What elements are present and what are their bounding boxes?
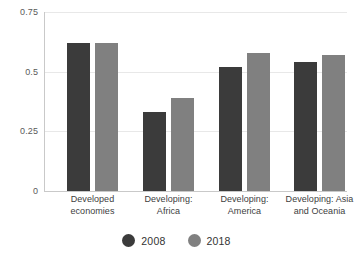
y-tick-label-050: 0.5 bbox=[2, 67, 38, 77]
legend-label-2018: 2018 bbox=[207, 235, 231, 247]
chart-legend: 2008 2018 bbox=[0, 234, 353, 247]
bar-group-developing-asia-oceania bbox=[285, 12, 354, 191]
gridline-000-baseline bbox=[44, 191, 347, 192]
y-tick-label-000: 0 bbox=[2, 186, 38, 196]
bar-developing-america-2008[interactable] bbox=[219, 67, 242, 191]
bar-developing-africa-2018[interactable] bbox=[171, 98, 194, 191]
x-axis-labels: Developed economies Developing: Africa D… bbox=[44, 194, 347, 230]
x-label-line-2: and Oceania bbox=[294, 206, 346, 216]
bar-developed-economies-2008[interactable] bbox=[67, 43, 90, 191]
legend-swatch-icon-2018 bbox=[188, 234, 201, 247]
x-label-line-2: America bbox=[228, 206, 261, 216]
bar-developing-africa-2008[interactable] bbox=[143, 112, 166, 191]
bar-group-developed-economies bbox=[58, 12, 127, 191]
legend-swatch-icon-2008 bbox=[122, 234, 135, 247]
x-label-developing-asia-oceania: Developing: Asia and Oceania bbox=[267, 194, 358, 217]
x-label-line-1: Developing: bbox=[220, 194, 268, 204]
bar-developing-america-2018[interactable] bbox=[247, 53, 270, 191]
bar-developing-asia-oceania-2008[interactable] bbox=[294, 62, 317, 191]
legend-item-2018[interactable]: 2018 bbox=[188, 234, 231, 247]
bar-groups bbox=[44, 12, 347, 191]
x-label-line-1: Developing: Asia bbox=[286, 194, 354, 204]
legend-label-2008: 2008 bbox=[141, 235, 165, 247]
x-label-line-2: Africa bbox=[157, 206, 180, 216]
x-label-line-1: Developed bbox=[71, 194, 114, 204]
bar-developing-asia-oceania-2018[interactable] bbox=[322, 55, 345, 191]
bar-group-developing-america bbox=[210, 12, 279, 191]
y-tick-label-075: 0.75 bbox=[2, 7, 38, 17]
y-tick-label-025: 0.25 bbox=[2, 126, 38, 136]
x-label-line-1: Developing: bbox=[144, 194, 192, 204]
bar-developed-economies-2018[interactable] bbox=[95, 43, 118, 191]
bar-group-developing-africa bbox=[134, 12, 203, 191]
legend-item-2008[interactable]: 2008 bbox=[122, 234, 165, 247]
x-label-line-2: economies bbox=[71, 206, 115, 216]
